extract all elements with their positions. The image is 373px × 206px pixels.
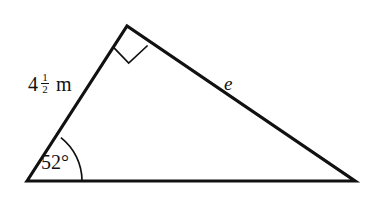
triangle-drawing bbox=[0, 0, 373, 206]
fraction-numerator: 1 bbox=[41, 72, 49, 83]
triangle-figure: 4 1 2 m e 52° bbox=[0, 0, 373, 206]
angle-measure-label: 52° bbox=[41, 152, 69, 172]
left-side-whole-number: 4 bbox=[28, 74, 38, 94]
hypotenuse-label: e bbox=[224, 74, 232, 93]
left-side-length-label: 4 1 2 m bbox=[28, 72, 72, 95]
left-side-fraction: 1 2 bbox=[41, 72, 49, 95]
fraction-denominator: 2 bbox=[41, 84, 49, 95]
left-side-unit: m bbox=[56, 74, 72, 94]
